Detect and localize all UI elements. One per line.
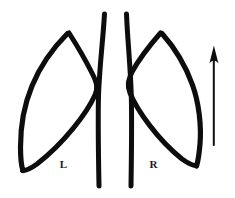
lung-diagram-canvas: L R <box>0 0 235 198</box>
right-lung-label: R <box>149 158 158 170</box>
left-lung-label: L <box>60 158 68 170</box>
diagram-background <box>0 0 235 198</box>
lung-diagram-figure: L R <box>0 0 235 198</box>
